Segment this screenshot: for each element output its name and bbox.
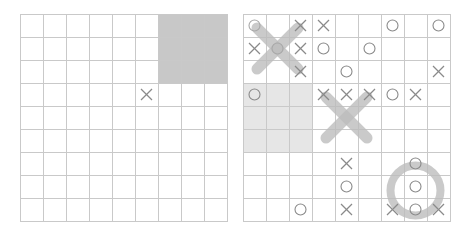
- board-cell[interactable]: [205, 61, 228, 84]
- board-cell[interactable]: [405, 61, 428, 84]
- board-cell[interactable]: [290, 84, 313, 107]
- board-cell[interactable]: [405, 84, 428, 107]
- board-cell[interactable]: [405, 153, 428, 176]
- board-cell[interactable]: [67, 130, 90, 153]
- board-cell[interactable]: [336, 176, 359, 199]
- board-cell[interactable]: [359, 15, 382, 38]
- board-cell[interactable]: [182, 199, 205, 222]
- board-cell[interactable]: [182, 84, 205, 107]
- board-cell[interactable]: [290, 199, 313, 222]
- board-cell[interactable]: [136, 199, 159, 222]
- board-cell[interactable]: [44, 15, 67, 38]
- board-cell[interactable]: [182, 130, 205, 153]
- board-cell[interactable]: [159, 199, 182, 222]
- board-cell[interactable]: [136, 38, 159, 61]
- board-cell[interactable]: [382, 176, 405, 199]
- board-cell[interactable]: [90, 107, 113, 130]
- board-cell[interactable]: [359, 130, 382, 153]
- board-cell[interactable]: [21, 130, 44, 153]
- board-cell[interactable]: [159, 107, 182, 130]
- board-cell[interactable]: [359, 153, 382, 176]
- board-cell[interactable]: [90, 130, 113, 153]
- board-cell[interactable]: [67, 199, 90, 222]
- board-cell[interactable]: [182, 176, 205, 199]
- board-cell[interactable]: [405, 130, 428, 153]
- board-cell[interactable]: [205, 38, 228, 61]
- board-cell[interactable]: [182, 61, 205, 84]
- board-cell[interactable]: [136, 153, 159, 176]
- board-cell[interactable]: [244, 176, 267, 199]
- board-cell[interactable]: [21, 199, 44, 222]
- board-cell[interactable]: [44, 153, 67, 176]
- board-cell[interactable]: [113, 38, 136, 61]
- board-cell[interactable]: [382, 107, 405, 130]
- board-cell[interactable]: [359, 199, 382, 222]
- board-cell[interactable]: [382, 153, 405, 176]
- board-cell[interactable]: [382, 199, 405, 222]
- board-cell[interactable]: [44, 199, 67, 222]
- board-cell[interactable]: [67, 84, 90, 107]
- board-cell[interactable]: [405, 107, 428, 130]
- board-cell[interactable]: [313, 130, 336, 153]
- board-cell[interactable]: [244, 107, 267, 130]
- board-cell[interactable]: [359, 38, 382, 61]
- board-cell[interactable]: [159, 38, 182, 61]
- board-cell[interactable]: [428, 38, 451, 61]
- board-cell[interactable]: [428, 107, 451, 130]
- board-cell[interactable]: [267, 84, 290, 107]
- board-cell[interactable]: [67, 107, 90, 130]
- board-cell[interactable]: [336, 38, 359, 61]
- board-cell[interactable]: [336, 84, 359, 107]
- board-cell[interactable]: [21, 84, 44, 107]
- board-cell[interactable]: [428, 15, 451, 38]
- board-cell[interactable]: [182, 153, 205, 176]
- board-cell[interactable]: [405, 199, 428, 222]
- board-cell[interactable]: [205, 199, 228, 222]
- board-cell[interactable]: [113, 176, 136, 199]
- board-cell[interactable]: [136, 130, 159, 153]
- board-cell[interactable]: [244, 38, 267, 61]
- board-cell[interactable]: [44, 130, 67, 153]
- board-cell[interactable]: [313, 199, 336, 222]
- board-cell[interactable]: [136, 15, 159, 38]
- board-cell[interactable]: [267, 15, 290, 38]
- board-cell[interactable]: [113, 84, 136, 107]
- board-cell[interactable]: [428, 176, 451, 199]
- board-cell[interactable]: [113, 61, 136, 84]
- board-cell[interactable]: [267, 153, 290, 176]
- board-cell[interactable]: [44, 176, 67, 199]
- board-cell[interactable]: [205, 176, 228, 199]
- board-cell[interactable]: [313, 107, 336, 130]
- board-cell[interactable]: [290, 107, 313, 130]
- board-cell[interactable]: [205, 153, 228, 176]
- board-cell[interactable]: [405, 38, 428, 61]
- board-cell[interactable]: [90, 199, 113, 222]
- board-cell[interactable]: [382, 84, 405, 107]
- board-cell[interactable]: [205, 84, 228, 107]
- board-cell[interactable]: [113, 107, 136, 130]
- board-cell[interactable]: [244, 61, 267, 84]
- board-cell[interactable]: [313, 176, 336, 199]
- board-cell[interactable]: [21, 61, 44, 84]
- board-cell[interactable]: [336, 130, 359, 153]
- board-cell[interactable]: [244, 15, 267, 38]
- board-cell[interactable]: [67, 153, 90, 176]
- board-cell[interactable]: [267, 130, 290, 153]
- board-cell[interactable]: [359, 176, 382, 199]
- board-cell[interactable]: [113, 15, 136, 38]
- board-cell[interactable]: [136, 61, 159, 84]
- board-cell[interactable]: [267, 38, 290, 61]
- board-cell[interactable]: [90, 38, 113, 61]
- board-cell[interactable]: [313, 153, 336, 176]
- board-cell[interactable]: [205, 107, 228, 130]
- board-cell[interactable]: [405, 176, 428, 199]
- board-cell[interactable]: [359, 107, 382, 130]
- board-cell[interactable]: [182, 38, 205, 61]
- board-cell[interactable]: [313, 84, 336, 107]
- board-cell[interactable]: [136, 107, 159, 130]
- board-cell[interactable]: [428, 199, 451, 222]
- board-cell[interactable]: [21, 153, 44, 176]
- board-cell[interactable]: [21, 176, 44, 199]
- board-cell[interactable]: [428, 84, 451, 107]
- board-cell[interactable]: [90, 84, 113, 107]
